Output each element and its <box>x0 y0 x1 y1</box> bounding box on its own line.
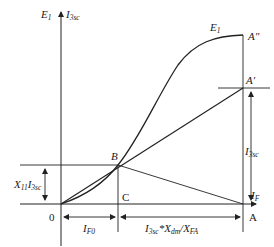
point-label-a-prime: A′ <box>245 74 256 86</box>
point-label-a-double-prime: A″ <box>247 30 260 42</box>
right-dimension-label: I3sc <box>244 145 259 159</box>
bottom-left-dimension-label: IF0 <box>82 222 95 236</box>
point-label-c: C <box>122 191 129 203</box>
y-axis-label-e1: E1 <box>40 8 51 22</box>
characteristic-diagram: E1 I3sc IF 0 E1 A″ A′ A B C X11I3sc I3sc… <box>0 0 274 247</box>
airgap-line <box>61 88 243 204</box>
point-label-a: A <box>249 211 257 223</box>
e1-curve <box>61 35 243 204</box>
point-label-b: B <box>111 150 118 162</box>
y-axis-label-i3sc: I3sc <box>65 8 80 22</box>
bottom-right-dimension-label: I3sc*Xdm/XFA <box>144 222 198 236</box>
curve-label-e1: E1 <box>209 21 220 35</box>
left-dimension-label: X11I3sc <box>13 178 42 192</box>
x-axis-label-if: IF <box>250 189 260 203</box>
b-to-a-line <box>118 165 243 204</box>
origin-label: 0 <box>49 211 55 223</box>
